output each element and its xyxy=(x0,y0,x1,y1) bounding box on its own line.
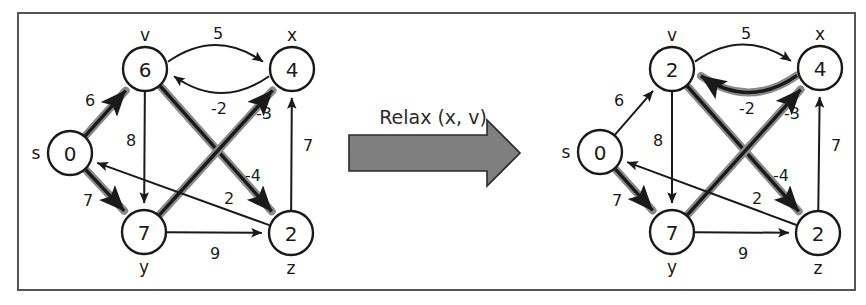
node-v-value: 6 xyxy=(139,58,152,82)
edge-s-y-weight-label: 7 xyxy=(612,191,622,210)
node-x-value: 4 xyxy=(814,57,827,81)
edge-z-x-weight-label: 7 xyxy=(303,136,313,155)
node-x-name-label: x xyxy=(815,24,825,44)
edge-z-x[interactable] xyxy=(818,97,819,210)
edge-v-y-weight-label: 8 xyxy=(653,131,663,150)
node-z-value: 2 xyxy=(285,222,298,246)
edge-z-s-weight-label: 2 xyxy=(224,189,234,208)
edge-y-z-weight-label: 9 xyxy=(738,244,748,263)
node-s-name-label: s xyxy=(32,143,41,163)
node-v-name-label: v xyxy=(667,25,677,45)
edge-y-x-weight-label: -3 xyxy=(256,104,272,123)
node-z-value: 2 xyxy=(812,222,825,246)
edge-x-v-weight-label: -2 xyxy=(739,99,755,118)
edge-v-x[interactable] xyxy=(168,45,263,62)
edge-v-z-weight-label: -4 xyxy=(773,166,789,185)
edge-y-z[interactable] xyxy=(695,232,789,233)
node-y-name-label: y xyxy=(667,257,677,277)
node-y-name-label: y xyxy=(139,257,149,277)
edge-s-v-weight-label: 6 xyxy=(614,91,624,110)
edge-v-x-weight-label: 5 xyxy=(741,24,751,43)
edge-v-y-weight-label: 8 xyxy=(126,131,136,150)
edge-y-x-weight-label: -3 xyxy=(784,104,800,123)
node-s-name-label: s xyxy=(562,142,571,162)
edge-z-x[interactable] xyxy=(291,98,292,210)
graph-relaxation-figure: 675-28-4-3972675-28-4-3972 0s6v4x7y2z0s2… xyxy=(0,0,866,305)
figure-canvas: 675-28-4-3972675-28-4-3972 0s6v4x7y2z0s2… xyxy=(0,0,866,305)
edge-v-z-weight-label: -4 xyxy=(245,166,261,185)
edge-y-z[interactable] xyxy=(167,232,262,233)
relax-label: Relax (x, v) xyxy=(379,106,487,128)
graph-before-nodes: 0s6v4x7y2z xyxy=(32,25,314,278)
edge-s-v-weight-label: 6 xyxy=(85,91,95,110)
right-arrow-icon xyxy=(349,120,520,186)
node-y-value: 7 xyxy=(666,221,679,245)
edge-z-s[interactable] xyxy=(627,162,796,225)
graph-after-nodes: 0s2v4x7y2z xyxy=(562,24,842,278)
edge-v-y[interactable] xyxy=(144,92,145,203)
node-y-value: 7 xyxy=(138,221,151,245)
edge-z-s-weight-label: 2 xyxy=(752,189,762,208)
node-s-value: 0 xyxy=(64,142,77,166)
edge-s-y-weight-label: 7 xyxy=(83,191,93,210)
edge-y-z-weight-label: 9 xyxy=(210,244,220,263)
edge-v-x[interactable] xyxy=(695,45,791,62)
edge-z-s[interactable] xyxy=(97,163,269,225)
node-s-value: 0 xyxy=(594,141,607,165)
node-v-name-label: v xyxy=(140,25,150,45)
node-z-name-label: z xyxy=(287,258,296,278)
node-z-name-label: z xyxy=(814,258,823,278)
transition-group: Relax (x, v) xyxy=(349,106,520,186)
edge-x-v-weight-label: -2 xyxy=(211,99,227,118)
node-x-value: 4 xyxy=(286,58,299,82)
node-v-value: 2 xyxy=(666,58,679,82)
edge-x-v[interactable] xyxy=(174,76,269,93)
edge-z-x-weight-label: 7 xyxy=(831,136,841,155)
edge-v-x-weight-label: 5 xyxy=(213,24,223,43)
node-x-name-label: x xyxy=(287,25,297,45)
